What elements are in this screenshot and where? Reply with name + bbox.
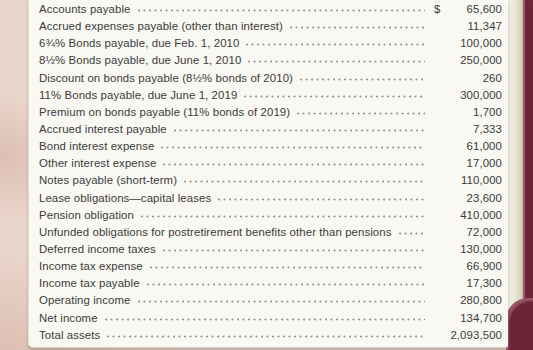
line-item-row: Total assets 2,093,500 — [39, 329, 502, 346]
line-item-label: Deferred income taxes — [39, 243, 156, 255]
line-item-row: Income tax payable 17,300 — [39, 277, 502, 294]
dot-leader — [150, 266, 425, 269]
line-item-amount: 72,000 — [447, 226, 502, 238]
dot-leader — [297, 112, 425, 115]
line-item-label: Unfunded obligations for postretirement … — [39, 226, 392, 238]
dot-leader — [163, 249, 425, 252]
dot-leader — [138, 9, 425, 12]
line-item-label: Accrued interest payable — [39, 123, 167, 135]
line-item-row: Net income 134,700 — [39, 312, 502, 329]
line-item-label: Income tax payable — [39, 277, 140, 289]
line-item-label: Accounts payable — [39, 3, 131, 15]
book-spine-corner — [506, 298, 533, 350]
dot-leader — [290, 26, 425, 29]
dot-leader — [399, 232, 425, 235]
dot-leader — [141, 215, 425, 218]
line-item-row: 11% Bonds payable, due June 1, 2019 300,… — [39, 89, 502, 106]
line-item-amount: 23,600 — [447, 192, 502, 204]
dot-leader — [105, 318, 425, 321]
line-item-row: Income tax expense 66,900 — [39, 260, 502, 277]
dot-leader — [248, 60, 425, 63]
line-item-label: Lease obligations—capital leases — [39, 192, 211, 204]
line-item-row: Bond interest expense 61,000 — [39, 140, 502, 157]
line-item-amount: 61,000 — [447, 140, 502, 152]
line-item-amount: 134,700 — [447, 312, 502, 324]
line-item-amount: 2,093,500 — [447, 329, 502, 341]
line-item-row: 8½% Bonds payable, due June 1, 2010 250,… — [39, 54, 502, 71]
line-item-amount: 110,000 — [447, 174, 502, 186]
line-item-amount: 65,600 — [447, 3, 502, 15]
line-item-amount: 100,000 — [447, 37, 502, 49]
line-item-amount: 11,347 — [447, 20, 502, 32]
line-item-row: Unfunded obligations for postretirement … — [39, 226, 502, 243]
line-item-row: Notes payable (short-term) 110,000 — [39, 174, 502, 191]
currency-symbol: $ — [434, 3, 447, 15]
line-item-row: Accrued expenses payable (other than int… — [39, 20, 502, 37]
line-item-label: Premium on bonds payable (11% bonds of 2… — [39, 106, 290, 118]
line-item-row: Pension obligation 410,000 — [39, 209, 502, 226]
line-item-label: 8½% Bonds payable, due June 1, 2010 — [39, 54, 241, 66]
line-item-amount: 280,800 — [447, 294, 502, 306]
line-item-amount: 250,000 — [447, 54, 502, 66]
line-item-row: Accounts payable $ 65,600 — [39, 3, 502, 20]
dot-leader — [174, 129, 425, 132]
line-item-amount: 17,000 — [447, 157, 502, 169]
dot-leader — [246, 43, 425, 46]
line-item-label: Pension obligation — [39, 209, 134, 221]
line-item-row: Discount on bonds payable (8½% bonds of … — [39, 72, 502, 89]
line-item-label: Net income — [39, 312, 98, 324]
dot-leader — [107, 335, 425, 338]
line-item-label: Total assets — [39, 329, 100, 341]
line-item-row: 6¾% Bonds payable, due Feb. 1, 2010 100,… — [39, 37, 502, 54]
dot-leader — [218, 198, 425, 201]
line-item-amount: 17,300 — [447, 277, 502, 289]
line-item-row: Deferred income taxes 130,000 — [39, 243, 502, 260]
line-item-label: Notes payable (short-term) — [39, 174, 177, 186]
line-item-row: Operating income 280,800 — [39, 294, 502, 311]
dot-leader — [300, 78, 425, 81]
line-item-amount: 7,333 — [447, 123, 502, 135]
line-item-row: Lease obligations—capital leases 23,600 — [39, 192, 502, 209]
line-item-amount: 410,000 — [447, 209, 502, 221]
line-item-amount: 130,000 — [447, 243, 502, 255]
line-item-label: Operating income — [39, 294, 131, 306]
line-item-label: 6¾% Bonds payable, due Feb. 1, 2010 — [39, 37, 239, 49]
dot-leader — [184, 180, 425, 183]
line-item-label: Other interest expense — [39, 157, 156, 169]
line-item-label: Bond interest expense — [39, 140, 154, 152]
dot-leader — [163, 163, 425, 166]
dot-leader — [147, 283, 425, 286]
line-item-label: 11% Bonds payable, due June 1, 2019 — [39, 89, 237, 101]
line-item-row: Accrued interest payable 7,333 — [39, 123, 502, 140]
line-items-list: Accounts payable $ 65,600 Accrued expens… — [29, 0, 508, 346]
line-item-row: Premium on bonds payable (11% bonds of 2… — [39, 106, 502, 123]
dot-leader — [138, 300, 425, 303]
line-item-amount: 66,900 — [447, 260, 502, 272]
line-item-amount: 1,700 — [447, 106, 502, 118]
line-item-row: Other interest expense 17,000 — [39, 157, 502, 174]
dot-leader — [244, 95, 425, 98]
dot-leader — [161, 146, 425, 149]
line-item-amount: 300,000 — [447, 89, 502, 101]
line-item-label: Discount on bonds payable (8½% bonds of … — [39, 72, 293, 84]
page-background: Accounts payable $ 65,600 Accrued expens… — [0, 0, 533, 350]
line-items-panel: Accounts payable $ 65,600 Accrued expens… — [28, 0, 508, 348]
line-item-amount: 260 — [447, 72, 502, 84]
line-item-label: Income tax expense — [39, 260, 143, 272]
line-item-label: Accrued expenses payable (other than int… — [39, 20, 283, 32]
